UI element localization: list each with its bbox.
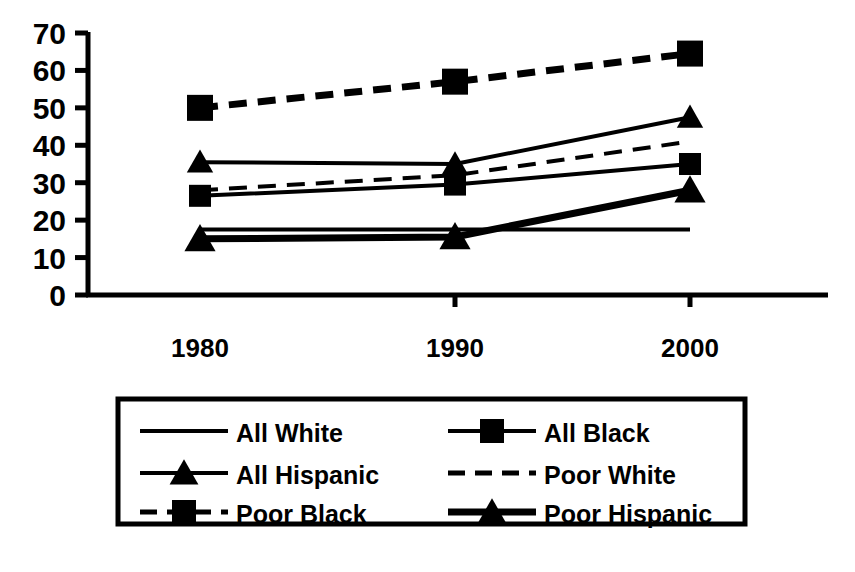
y-axis-tick-label: 30	[33, 167, 66, 200]
y-axis-tick-label: 50	[33, 92, 66, 125]
legend-item-label: All Black	[544, 419, 650, 447]
y-axis-tick-label: 40	[33, 129, 66, 162]
legend-item-label: Poor Black	[236, 500, 367, 528]
legend-item-poor-black[interactable]: Poor Black	[140, 500, 367, 528]
data-point-square-marker	[679, 153, 701, 175]
y-axis-tick-label: 10	[33, 242, 66, 275]
data-point-square-marker	[187, 95, 213, 121]
data-point-square-marker	[677, 41, 703, 67]
x-axis-tick-label: 2000	[661, 333, 719, 363]
series-poor-black	[187, 41, 703, 121]
data-point-square-marker	[442, 69, 468, 95]
data-point-square-marker	[172, 500, 196, 524]
x-axis-tick-label: 1990	[426, 333, 484, 363]
legend-item-label: Poor White	[544, 461, 676, 489]
series-all-hispanic	[187, 105, 703, 175]
chart-figure: 010203040506070198019902000All WhiteAll …	[0, 0, 855, 572]
legend: All WhiteAll BlackAll HispanicPoor White…	[118, 399, 745, 528]
data-point-square-marker	[480, 419, 504, 443]
y-axis-tick-label: 70	[33, 17, 66, 50]
legend-item-label: All White	[236, 419, 343, 447]
y-axis-tick-label: 60	[33, 54, 66, 87]
series-line	[200, 117, 690, 164]
data-point-triangle-marker	[677, 105, 703, 128]
x-axis-tick-label: 1980	[171, 333, 229, 363]
y-axis-tick-label: 0	[49, 279, 66, 312]
y-axis-tick-label: 20	[33, 204, 66, 237]
legend-item-label: Poor Hispanic	[544, 500, 712, 528]
legend-item-label: All Hispanic	[236, 461, 379, 489]
line-chart: 010203040506070198019902000All WhiteAll …	[0, 0, 855, 572]
series-line	[200, 190, 690, 239]
